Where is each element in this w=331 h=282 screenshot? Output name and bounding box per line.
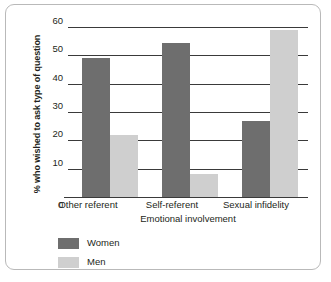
gridline-60: 60 xyxy=(68,27,308,28)
legend: Women Men xyxy=(58,235,120,273)
y-tick-label-20: 20 xyxy=(52,129,63,139)
y-tick-label-40: 40 xyxy=(52,73,63,83)
y-axis-title: % who wished to ask type of question xyxy=(32,24,42,204)
legend-label-men: Men xyxy=(87,257,105,267)
bar-men-other-referent xyxy=(110,135,138,197)
legend-label-women: Women xyxy=(87,238,120,248)
bar-women-self-referent xyxy=(162,43,190,197)
x-axis-baseline xyxy=(64,197,308,198)
figure-frame: % who wished to ask type of question 60 … xyxy=(5,4,321,270)
legend-swatch-men-icon xyxy=(58,257,79,268)
plot-area: 60 50 40 30 20 10 xyxy=(68,27,308,197)
bar-women-sexual-infidelity xyxy=(242,121,270,198)
legend-item-men: Men xyxy=(58,254,120,270)
x-axis-title: Emotional involvement xyxy=(68,214,308,224)
y-tick-label-10: 10 xyxy=(52,158,63,168)
bar-women-other-referent xyxy=(82,58,110,197)
y-tick-label-50: 50 xyxy=(52,44,63,54)
y-tick-label-60: 60 xyxy=(52,16,63,26)
bar-men-sexual-infidelity xyxy=(270,30,298,197)
x-category-label-sexual-infidelity: Sexual infidelity xyxy=(196,200,316,210)
legend-item-women: Women xyxy=(58,235,120,251)
y-tick-label-30: 30 xyxy=(52,101,63,111)
legend-swatch-women-icon xyxy=(58,238,79,249)
bar-men-self-referent xyxy=(190,174,218,197)
